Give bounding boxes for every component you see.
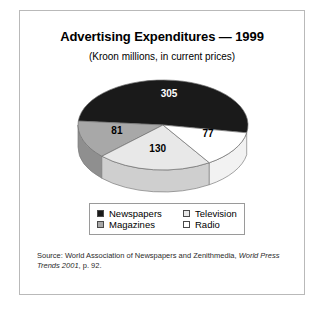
- legend-swatch-radio: [183, 221, 190, 228]
- pie-label-radio: 77: [202, 128, 214, 139]
- pie-chart: 3058113077: [68, 73, 258, 193]
- pie-label-magazines: 81: [111, 125, 123, 136]
- legend-grid: Newspapers Television Magazines Radio: [97, 208, 244, 230]
- legend-label-newspapers: Newspapers: [109, 208, 162, 219]
- legend-label-magazines: Magazines: [109, 219, 155, 230]
- pie-chart-svg: 3058113077: [68, 73, 258, 193]
- legend-swatch-television: [183, 210, 190, 217]
- legend-item-television[interactable]: Television: [183, 208, 244, 219]
- pie-label-television: 130: [149, 143, 166, 154]
- legend-item-radio[interactable]: Radio: [183, 219, 244, 230]
- legend-swatch-newspapers: [97, 210, 104, 217]
- source-prefix: Source: World Association of Newspapers …: [37, 251, 239, 260]
- pie-label-newspapers: 305: [161, 88, 178, 99]
- figure-frame: Advertising Expenditures — 1999 (Kroon m…: [19, 10, 305, 295]
- chart-subtitle: (Kroon millions, in current prices): [20, 51, 304, 62]
- chart-legend: Newspapers Television Magazines Radio: [89, 203, 245, 235]
- source-note: Source: World Association of Newspapers …: [37, 251, 287, 271]
- source-suffix: , p. 92.: [79, 261, 102, 270]
- legend-item-magazines[interactable]: Magazines: [97, 219, 183, 230]
- legend-swatch-magazines: [97, 221, 104, 228]
- chart-title: Advertising Expenditures — 1999: [20, 29, 304, 44]
- legend-item-newspapers[interactable]: Newspapers: [97, 208, 183, 219]
- legend-label-radio: Radio: [195, 219, 220, 230]
- legend-label-television: Television: [195, 208, 237, 219]
